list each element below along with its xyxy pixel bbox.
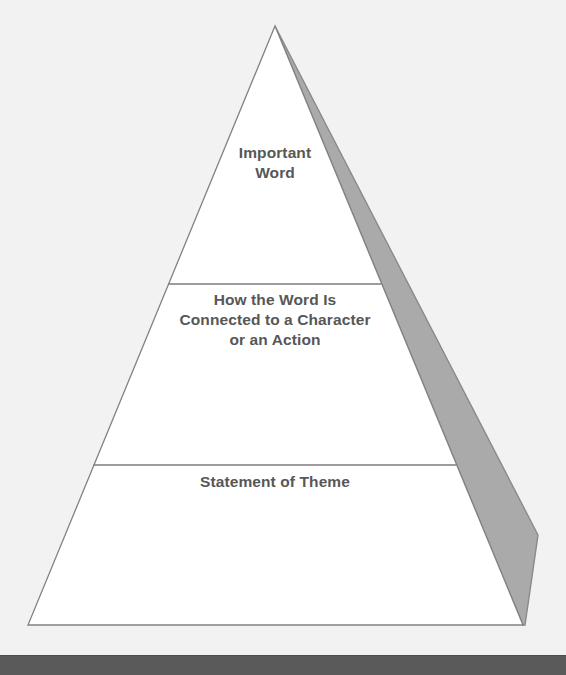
tier-2-label: How the Word Is Connected to a Character… <box>140 290 410 349</box>
tier-1-label: Important Word <box>175 143 375 183</box>
tier-3-label: Statement of Theme <box>120 472 430 492</box>
bottom-bar <box>0 655 566 675</box>
